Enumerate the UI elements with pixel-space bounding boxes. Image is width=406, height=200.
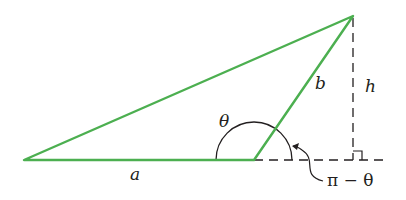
label-a: a bbox=[130, 164, 140, 184]
arrowhead-icon bbox=[292, 143, 299, 150]
label-pi-minus-theta: π − θ bbox=[327, 170, 373, 190]
triangle bbox=[24, 16, 353, 160]
label-theta: θ bbox=[219, 111, 229, 131]
right-angle-marker bbox=[353, 151, 362, 160]
supplement-pointer bbox=[293, 146, 323, 181]
label-b: b bbox=[315, 73, 326, 93]
label-h: h bbox=[365, 76, 376, 96]
triangle-diagram: a b h θ π − θ bbox=[0, 0, 406, 200]
